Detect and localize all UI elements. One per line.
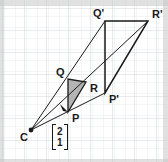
label-point-q: Q bbox=[56, 67, 65, 78]
label-point-p-prime: P' bbox=[109, 94, 119, 105]
vector-components: 2 1 bbox=[56, 126, 64, 148]
label-point-c: C bbox=[20, 132, 28, 143]
diagram-canvas: C P Q R P' Q' R' 2 1 bbox=[0, 0, 168, 162]
page-edge-left bbox=[0, 0, 4, 162]
page-edge-top bbox=[0, 0, 168, 6]
column-vector-label: 2 1 bbox=[52, 124, 68, 150]
label-point-r-prime: R' bbox=[152, 9, 163, 20]
label-point-p: P bbox=[72, 113, 79, 124]
centre-point-c-dot bbox=[29, 128, 34, 133]
vector-component-top: 2 bbox=[57, 126, 63, 137]
page-edge-bottom bbox=[0, 159, 168, 162]
label-point-q-prime: Q' bbox=[93, 8, 104, 19]
vector-component-bottom: 1 bbox=[57, 137, 63, 148]
vector-bracket-right bbox=[64, 124, 68, 150]
page-edge-right bbox=[163, 0, 168, 162]
label-point-r: R bbox=[90, 83, 98, 94]
